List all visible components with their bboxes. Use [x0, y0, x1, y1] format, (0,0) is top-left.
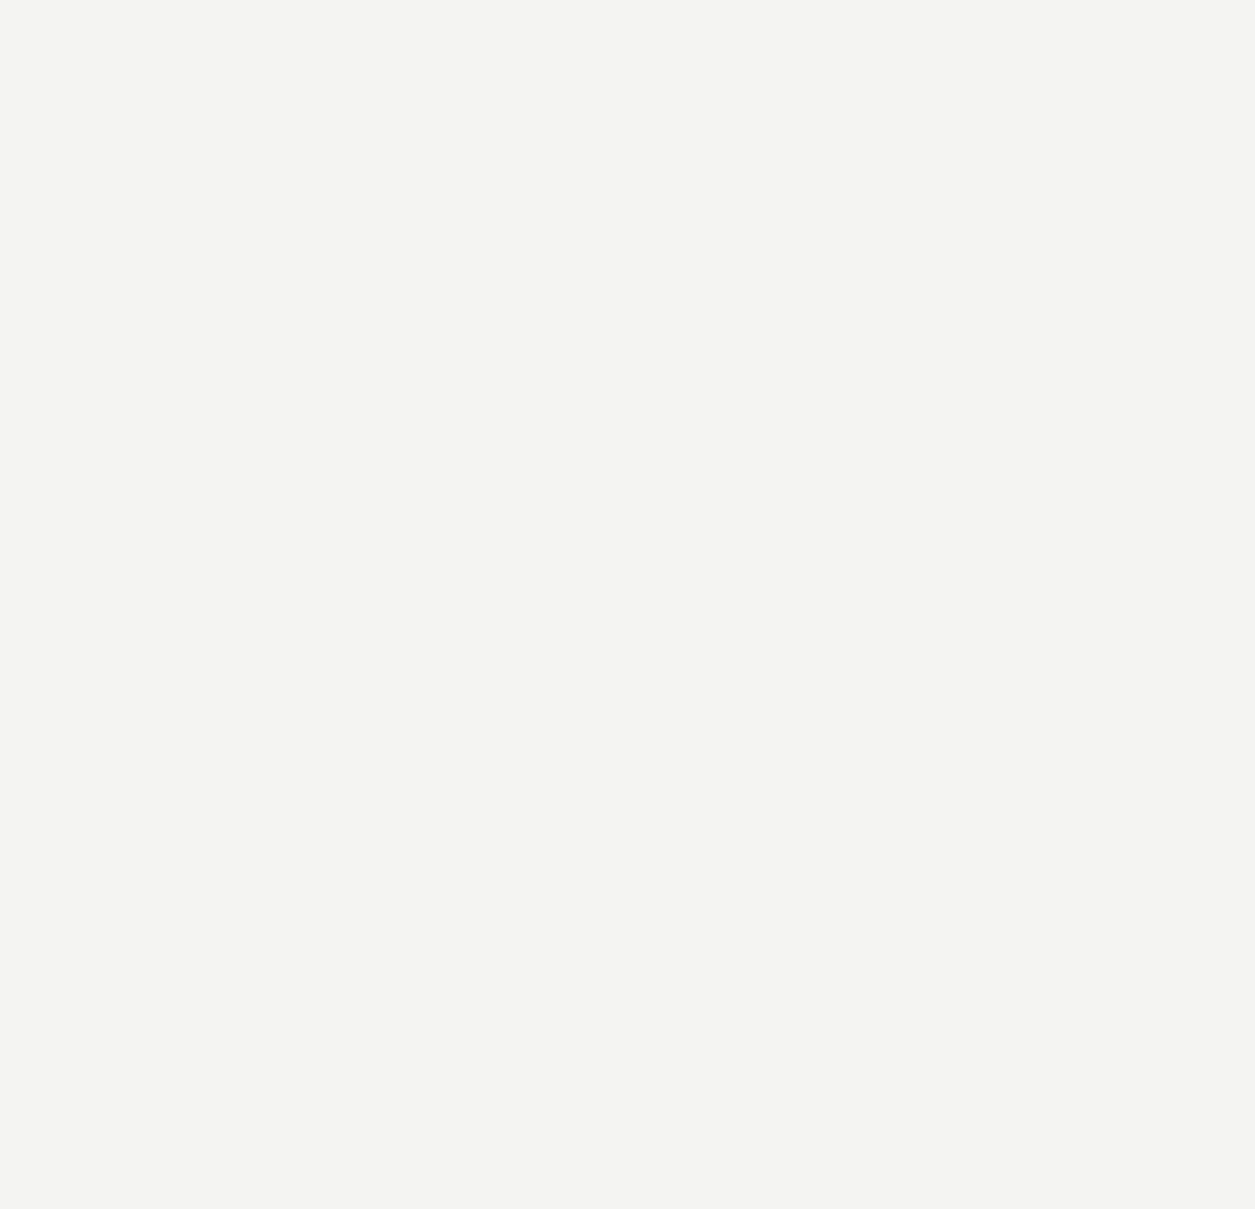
- abort-speed-chart: [0, 0, 1255, 1209]
